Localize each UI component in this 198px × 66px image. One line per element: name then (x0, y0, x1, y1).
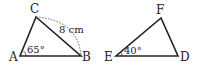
angle-a-value: 65° (27, 44, 45, 55)
vertex-label-d: D (180, 50, 190, 64)
vertex-label-a: A (8, 50, 18, 64)
triangle-def: F E D 40° (104, 3, 190, 64)
geometry-figure: C A B 65° 8 cm F E D 40° (0, 0, 198, 66)
side-cb-length: 8 cm (59, 24, 84, 35)
vertex-label-b: B (82, 50, 91, 64)
vertex-label-e: E (104, 50, 113, 64)
vertex-label-c: C (30, 2, 39, 16)
vertex-label-f: F (156, 3, 164, 17)
angle-e-value: 40° (124, 45, 142, 56)
triangle-abc: C A B 65° 8 cm (8, 2, 91, 64)
